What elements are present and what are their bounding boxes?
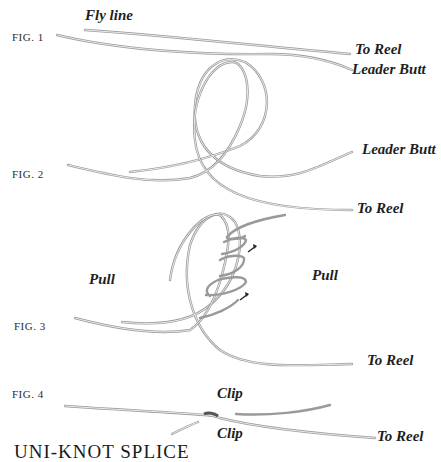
fig3-lines <box>75 214 352 366</box>
fig1-label: FIG. 1 <box>12 31 44 43</box>
leader-butt-callout-fig1: Leader Butt <box>352 61 426 78</box>
clip-bottom-callout: Clip <box>217 425 243 442</box>
to-reel-callout-fig3: To Reel <box>367 352 414 369</box>
to-reel-callout-fig2: To Reel <box>357 200 404 217</box>
fig1-lines <box>57 30 352 70</box>
fig3-label: FIG. 3 <box>14 320 46 332</box>
to-reel-callout-fig1: To Reel <box>355 41 402 58</box>
to-reel-callout-fig4: To Reel <box>377 428 424 445</box>
leader-butt-callout-fig2: Leader Butt <box>362 141 436 158</box>
fig2-lines <box>68 59 352 210</box>
fig2-label: FIG. 2 <box>12 168 44 180</box>
pull-left-callout: Pull <box>89 271 115 288</box>
fig4-label: FIG. 4 <box>12 388 44 400</box>
clip-top-callout: Clip <box>217 385 243 402</box>
diagram-title: UNI-KNOT SPLICE <box>14 441 190 462</box>
fly-line-callout: Fly line <box>85 7 133 24</box>
pull-right-callout: Pull <box>312 267 338 284</box>
